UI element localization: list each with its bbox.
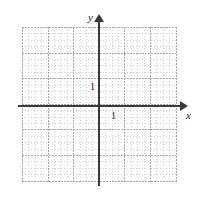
y-axis-arrow-icon <box>94 14 104 22</box>
x-axis-label: x <box>186 110 191 121</box>
coordinate-plane-figure: x y 1 1 <box>0 0 200 202</box>
y-axis-unit-tick-label: 1 <box>90 82 95 92</box>
y-axis <box>98 21 100 186</box>
y-axis-label: y <box>88 12 93 23</box>
x-axis-unit-tick-label: 1 <box>111 111 116 121</box>
